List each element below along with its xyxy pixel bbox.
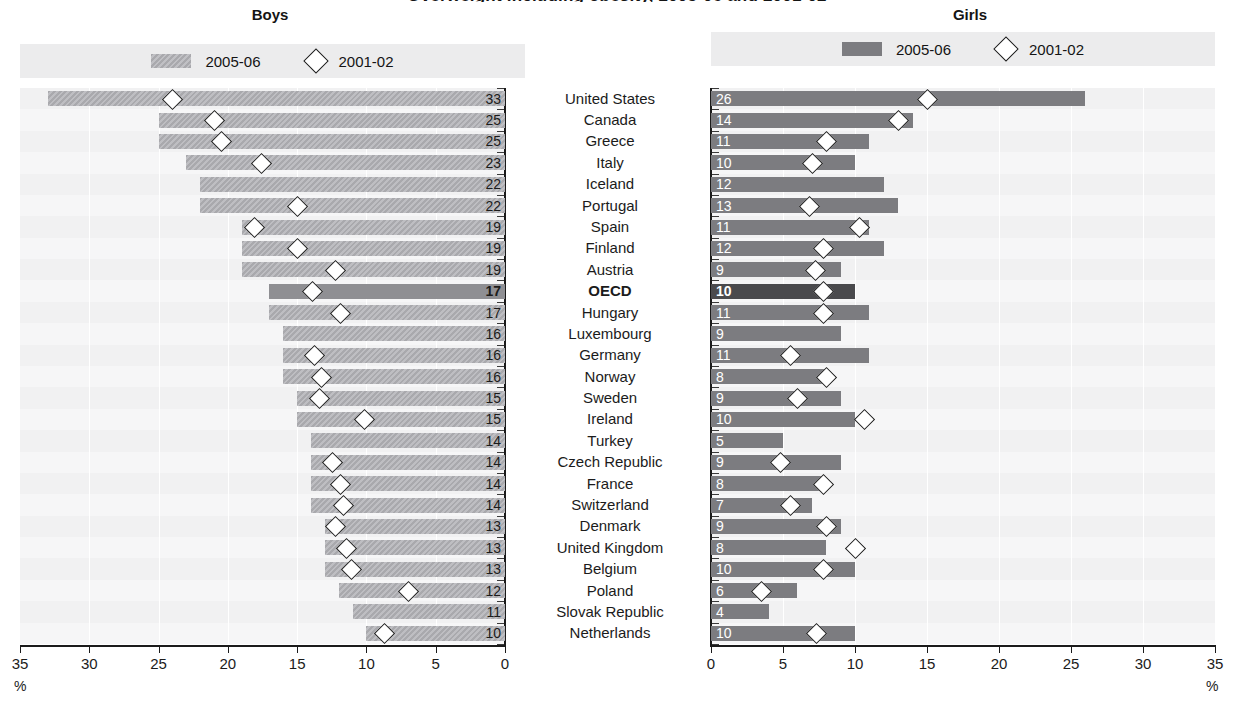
category-tick — [497, 216, 504, 217]
bar-value-label: 9 — [716, 263, 724, 277]
axis-tick — [1215, 646, 1216, 653]
axis-tick-label: 25 — [1051, 655, 1091, 672]
gridline — [927, 88, 928, 644]
axis-tick — [159, 646, 160, 653]
bar-value-label: 6 — [716, 584, 724, 598]
country-label: Turkey — [512, 433, 708, 448]
legend-boys: 2005-06 2001-02 — [20, 44, 525, 78]
bar-value-label: 15 — [479, 412, 501, 426]
country-label: Luxembourg — [512, 326, 708, 341]
bar-value-label: 16 — [479, 370, 501, 384]
country-label: Germany — [512, 347, 708, 362]
country-label: Iceland — [512, 176, 708, 191]
bar — [711, 626, 855, 641]
axis-tick-label: 15 — [907, 655, 947, 672]
bar-value-label: 12 — [716, 241, 732, 255]
bar-value-label: 11 — [716, 134, 731, 148]
country-label: Italy — [512, 155, 708, 170]
axis-tick-label: 30 — [1123, 655, 1163, 672]
category-tick — [497, 601, 504, 602]
axis-tick — [366, 646, 367, 653]
legend-label-marker-girls: 2001-02 — [1029, 41, 1084, 58]
category-tick — [497, 302, 504, 303]
bar-value-label: 13 — [479, 519, 501, 533]
bar — [325, 519, 505, 534]
bar — [711, 412, 855, 427]
gridline — [159, 88, 160, 644]
bar — [711, 91, 1085, 106]
category-tick — [497, 152, 504, 153]
category-tick — [712, 580, 719, 581]
country-label: OECD — [512, 283, 708, 298]
category-tick — [497, 516, 504, 517]
category-tick — [712, 280, 719, 281]
bar-value-label: 7 — [716, 498, 724, 512]
bar-value-label: 19 — [479, 263, 501, 277]
axis-tick — [297, 646, 298, 653]
category-tick — [497, 323, 504, 324]
category-tick — [497, 494, 504, 495]
bar-value-label: 4 — [716, 605, 724, 619]
bar-value-label: 11 — [716, 220, 731, 234]
bar-value-label: 33 — [479, 92, 501, 106]
bar-value-label: 12 — [479, 584, 501, 598]
category-tick — [712, 644, 719, 645]
bar-value-label: 13 — [716, 199, 732, 213]
category-tick — [712, 601, 719, 602]
category-tick — [497, 345, 504, 346]
legend-label-marker-boys: 2001-02 — [339, 53, 394, 70]
category-tick — [497, 409, 504, 410]
bar-value-label: 10 — [716, 156, 732, 170]
gridline — [1071, 88, 1072, 644]
axis-tick-label: 20 — [979, 655, 1019, 672]
category-tick — [497, 387, 504, 388]
value-axis-girls — [710, 645, 1216, 647]
bar-value-label: 5 — [716, 434, 724, 448]
axis-tick — [228, 646, 229, 653]
bar — [711, 476, 826, 491]
bar-value-label: 9 — [716, 327, 724, 341]
bar — [242, 241, 505, 256]
axis-tick — [1071, 646, 1072, 653]
country-label-column: United StatesCanadaGreeceItalyIcelandPor… — [512, 88, 708, 644]
country-label: Ireland — [512, 411, 708, 426]
bar-value-label: 10 — [716, 412, 732, 426]
category-tick — [497, 537, 504, 538]
axis-tick — [711, 646, 712, 653]
category-tick — [712, 494, 719, 495]
bar — [711, 113, 913, 128]
bar — [242, 262, 505, 277]
bar-value-label: 14 — [716, 113, 732, 127]
country-label: Sweden — [512, 390, 708, 405]
gridline — [366, 88, 367, 644]
bar — [711, 326, 841, 341]
category-tick — [712, 366, 719, 367]
bar-value-label: 11 — [716, 348, 731, 362]
category-tick — [712, 558, 719, 559]
category-tick — [712, 537, 719, 538]
category-tick — [712, 345, 719, 346]
axis-unit-girls: % — [1206, 678, 1218, 694]
legend-label-bar-girls: 2005-06 — [896, 41, 951, 58]
axis-tick-label: 0 — [691, 655, 731, 672]
category-tick — [497, 280, 504, 281]
country-label: Czech Republic — [512, 454, 708, 469]
bar-value-label: 15 — [479, 391, 501, 405]
axis-tick — [999, 646, 1000, 653]
country-label: Slovak Republic — [512, 604, 708, 619]
bar-value-label: 23 — [479, 156, 501, 170]
bar — [48, 91, 505, 106]
bar — [711, 391, 841, 406]
plot-area-girls — [711, 88, 1215, 644]
bar — [711, 369, 826, 384]
bar — [711, 241, 884, 256]
country-label: Finland — [512, 240, 708, 255]
country-label: Switzerland — [512, 497, 708, 512]
country-label: Greece — [512, 133, 708, 148]
bar-value-label: 10 — [716, 562, 732, 576]
bar-value-label: 8 — [716, 370, 724, 384]
category-tick — [497, 366, 504, 367]
axis-tick-label: 20 — [208, 655, 248, 672]
category-tick — [712, 152, 719, 153]
bar — [269, 305, 505, 320]
